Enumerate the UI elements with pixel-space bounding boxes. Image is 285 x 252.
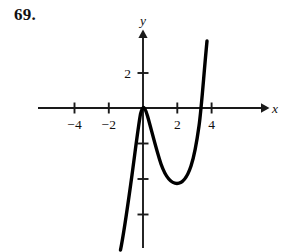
x-axis-label: x	[271, 101, 278, 116]
y-axis-arrow-icon	[138, 30, 147, 39]
x-tick-label-4: 4	[208, 117, 215, 132]
coordinate-plot: −4 −2 2 4 2 x y	[0, 0, 285, 252]
x-tick-label-minus2: −2	[102, 117, 116, 132]
x-tick-label-minus4: −4	[67, 117, 82, 132]
cubic-curve	[121, 41, 208, 250]
x-tick-label-2: 2	[174, 117, 181, 132]
x-axis-arrow-icon	[261, 103, 270, 113]
y-axis-label: y	[138, 13, 146, 28]
y-tick-label-2: 2	[124, 66, 131, 81]
figure-panel: 69. −4 −2 2 4 2 x y	[0, 0, 285, 252]
